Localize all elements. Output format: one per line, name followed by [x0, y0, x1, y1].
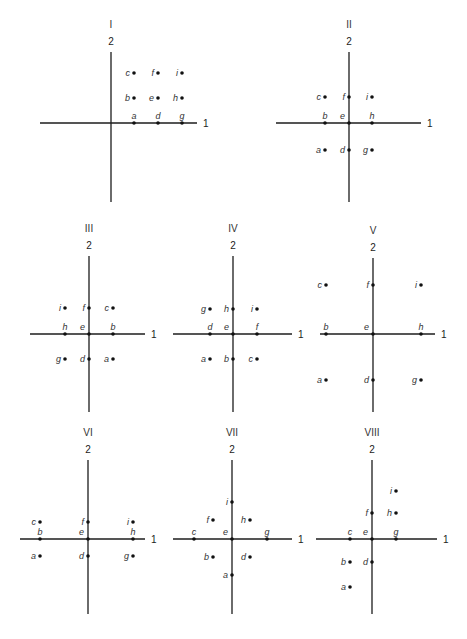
- point-marker: [323, 95, 327, 99]
- panel-title: VIII: [364, 427, 379, 438]
- point-b: b: [341, 557, 352, 567]
- point-marker: [370, 121, 374, 125]
- point-label: g: [124, 551, 129, 561]
- point-label: g: [363, 145, 368, 155]
- point-label: f: [82, 303, 86, 313]
- point-h: h: [130, 527, 135, 541]
- point-h: h: [369, 111, 374, 125]
- point-label: f: [81, 517, 85, 527]
- panel-title: II: [346, 19, 352, 30]
- point-label: d: [363, 557, 369, 567]
- point-label: b: [110, 322, 115, 332]
- point-marker: [156, 71, 160, 75]
- point-marker: [324, 332, 328, 336]
- point-marker: [370, 537, 374, 541]
- point-label: c: [249, 354, 254, 364]
- point-i: i: [176, 68, 184, 78]
- point-marker: [255, 332, 259, 336]
- point-marker: [131, 537, 135, 541]
- point-a: a: [316, 145, 327, 155]
- point-i: i: [366, 92, 374, 102]
- point-marker: [211, 555, 215, 559]
- point-label: c: [32, 517, 37, 527]
- point-label: d: [207, 322, 213, 332]
- point-h: h: [62, 322, 67, 336]
- point-label: f: [342, 92, 346, 102]
- point-b: b: [204, 552, 215, 562]
- point-g: g: [124, 551, 135, 561]
- point-label: h: [387, 508, 392, 518]
- point-marker: [156, 96, 160, 100]
- point-g: g: [363, 145, 374, 155]
- point-marker: [208, 307, 212, 311]
- point-label: a: [317, 375, 322, 385]
- point-marker: [63, 306, 67, 310]
- point-g: g: [179, 111, 184, 125]
- point-label: f: [206, 515, 210, 525]
- point-label: f: [365, 508, 369, 518]
- point-a: a: [201, 354, 212, 364]
- point-label: h: [418, 322, 423, 332]
- point-marker: [38, 520, 42, 524]
- point-marker: [248, 518, 252, 522]
- axis-1-label: 1: [443, 534, 449, 545]
- point-label: b: [37, 527, 42, 537]
- point-label: b: [323, 322, 328, 332]
- panel-title: VI: [83, 427, 92, 438]
- point-label: i: [415, 280, 418, 290]
- point-marker: [132, 96, 136, 100]
- point-c: c: [126, 68, 136, 78]
- point-g: g: [56, 354, 67, 364]
- axis-2-label: 2: [346, 36, 352, 47]
- point-label: i: [127, 517, 130, 527]
- point-label: e: [223, 527, 228, 537]
- point-marker: [38, 537, 42, 541]
- point-label: g: [264, 527, 269, 537]
- point-marker: [208, 357, 212, 361]
- point-marker: [86, 537, 90, 541]
- panel-ii: II21cfibehadg: [276, 19, 433, 202]
- point-a: a: [104, 354, 115, 364]
- point-marker: [231, 307, 235, 311]
- point-label: b: [322, 111, 327, 121]
- point-h: h: [241, 515, 252, 525]
- point-label: d: [80, 354, 86, 364]
- point-c: c: [105, 303, 115, 313]
- point-label: i: [366, 92, 369, 102]
- point-marker: [211, 518, 215, 522]
- point-marker: [192, 537, 196, 541]
- point-i: i: [415, 280, 423, 290]
- axis-1-label: 1: [151, 534, 157, 545]
- panel-vii: VII21ifhcegbda: [173, 427, 304, 614]
- point-label: a: [201, 354, 206, 364]
- point-marker: [131, 520, 135, 524]
- point-g: g: [201, 304, 212, 314]
- point-label: f: [366, 280, 370, 290]
- point-marker: [370, 148, 374, 152]
- point-label: g: [56, 354, 61, 364]
- point-label: e: [149, 93, 154, 103]
- point-label: a: [223, 570, 228, 580]
- point-marker: [419, 332, 423, 336]
- panel-vi: VI21cfibehadg: [20, 427, 157, 614]
- axis-1-label: 1: [203, 118, 209, 129]
- point-marker: [371, 283, 375, 287]
- point-c: c: [249, 354, 259, 364]
- point-marker: [156, 121, 160, 125]
- point-label: d: [364, 375, 370, 385]
- configuration-diagram: I21adgbehcfiII21cfibehadgIII21ifchebgdaI…: [0, 0, 467, 639]
- point-marker: [370, 511, 374, 515]
- point-b: b: [322, 111, 327, 125]
- point-label: d: [340, 145, 346, 155]
- point-label: f: [151, 68, 155, 78]
- axis-2-label: 2: [230, 240, 236, 251]
- point-label: h: [173, 93, 178, 103]
- point-h: h: [418, 322, 423, 336]
- point-marker: [111, 332, 115, 336]
- panel-title: IV: [228, 223, 238, 234]
- point-marker: [86, 554, 90, 558]
- point-f: f: [151, 68, 159, 78]
- point-marker: [132, 71, 136, 75]
- axis-1-label: 1: [151, 329, 157, 340]
- point-label: h: [241, 515, 246, 525]
